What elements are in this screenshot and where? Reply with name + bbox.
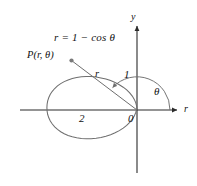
angle-arc — [113, 77, 170, 110]
point-p-label: P(r, θ) — [27, 50, 54, 61]
origin-label: 0 — [128, 113, 134, 124]
unit-two-label: 2 — [79, 113, 85, 124]
unit-one-label: 1 — [124, 69, 130, 80]
equation-label: r = 1 − cos θ — [54, 32, 115, 43]
x-axis-label: r — [184, 104, 188, 114]
radius-segment-label: r — [95, 69, 99, 80]
theta-angle-label: θ — [154, 86, 159, 97]
cardioid-figure: r = 1 − cos θ P(r, θ) r 1 θ y r 0 2 — [0, 0, 197, 186]
cardioid-curve — [47, 77, 137, 139]
y-axis-label: y — [131, 12, 135, 22]
figure-canvas — [0, 0, 197, 186]
point-p-marker — [69, 58, 73, 62]
